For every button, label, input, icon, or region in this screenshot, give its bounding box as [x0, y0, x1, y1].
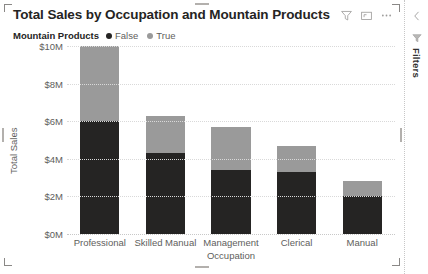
chevron-left-icon[interactable] — [411, 8, 423, 20]
gridline — [67, 46, 395, 47]
legend-item-false[interactable]: False — [106, 30, 138, 41]
filters-pane-label: Filters — [411, 48, 422, 78]
x-axis-tick-label: Skilled Manual — [134, 237, 196, 248]
y-axis-tick-label: $0M — [45, 229, 63, 240]
visual-header-actions — [340, 9, 393, 22]
y-axis-title: Total Sales — [8, 106, 20, 196]
filters-pane-collapsed[interactable]: Filters — [404, 0, 428, 274]
legend-label-true: True — [156, 30, 175, 41]
resize-handle-right[interactable] — [400, 128, 402, 142]
bar-segment-false[interactable] — [343, 196, 382, 234]
gridline — [67, 159, 395, 160]
x-axis-tick-label: Clerical — [281, 237, 313, 248]
legend-swatch-true — [147, 33, 153, 39]
plot-area: Total Sales $0M$2M$4M$6M$8M$10M Professi… — [4, 46, 400, 266]
chart-title: Total Sales by Occupation and Mountain P… — [13, 7, 330, 22]
y-axis-tick-labels: $0M$2M$4M$6M$8M$10M — [22, 46, 66, 234]
bar-segment-true[interactable] — [343, 181, 382, 196]
legend-swatch-false — [106, 33, 112, 39]
y-axis-tick-label: $2M — [45, 191, 63, 202]
resize-handle-bottom[interactable] — [195, 266, 209, 268]
bar-group[interactable] — [80, 46, 119, 234]
y-axis-tick-label: $10M — [39, 41, 63, 52]
filter-icon[interactable] — [340, 9, 353, 22]
bar-group[interactable] — [343, 181, 382, 234]
focus-mode-icon[interactable] — [360, 9, 373, 22]
legend-item-true[interactable]: True — [147, 30, 175, 41]
bar-group[interactable] — [211, 127, 250, 234]
bar-segment-true[interactable] — [211, 127, 250, 170]
bar-series-container — [67, 46, 395, 234]
x-axis-tick-label: Manual — [347, 237, 378, 248]
bar-segment-false[interactable] — [277, 172, 316, 234]
gridline — [67, 84, 395, 85]
legend-label-false: False — [115, 30, 138, 41]
plot-grid — [67, 46, 395, 234]
gridline — [67, 121, 395, 122]
visual-header: Total Sales by Occupation and Mountain P… — [4, 4, 400, 28]
more-options-icon[interactable] — [380, 9, 393, 22]
gridline — [67, 196, 395, 197]
legend-title: Mountain Products — [13, 30, 99, 41]
chart-visual-card[interactable]: Total Sales by Occupation and Mountain P… — [4, 4, 400, 266]
y-axis-tick-label: $6M — [45, 116, 63, 127]
x-axis-title: Occupation — [67, 250, 395, 261]
bar-segment-false[interactable] — [80, 121, 119, 234]
y-axis-tick-label: $8M — [45, 78, 63, 89]
bar-segment-false[interactable] — [211, 170, 250, 234]
x-axis-tick-label: Professional — [74, 237, 126, 248]
bar-segment-false[interactable] — [146, 153, 185, 234]
bar-group[interactable] — [146, 116, 185, 234]
filter-icon[interactable] — [411, 30, 423, 42]
x-axis-tick-label: Management — [203, 237, 258, 248]
y-axis-tick-label: $4M — [45, 153, 63, 164]
